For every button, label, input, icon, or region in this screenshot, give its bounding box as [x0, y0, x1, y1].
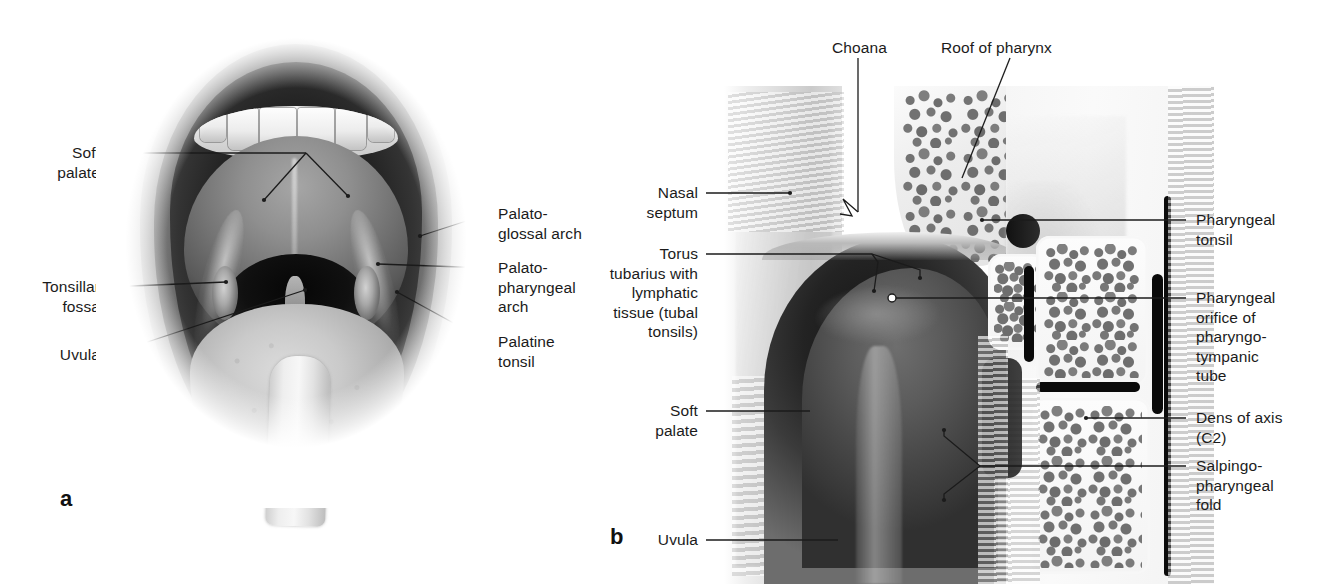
label-tonsillar-fossa: Tonsillar fossa: [0, 277, 100, 316]
label-soft-palate-a: Soft palate: [0, 143, 100, 182]
prevertebral-space: [1006, 214, 1040, 248]
intervertebral-disc: [1036, 382, 1140, 392]
anatomy-figure: Soft palate Tonsillar fossa Uvula Palato…: [0, 0, 1324, 584]
panel-marker-b: b: [610, 524, 623, 550]
label-roof-of-pharynx: Roof of pharynx: [941, 38, 1111, 58]
label-soft-palate-b: Soft palate: [568, 401, 698, 440]
label-pharyngeal-tonsil: Pharyngeal tonsil: [1196, 210, 1324, 249]
label-torus-tubarius: Torus tubarius with lymphatic tissue (tu…: [568, 244, 698, 342]
label-uvula-a: Uvula: [0, 345, 100, 365]
torus-highlight: [816, 286, 966, 356]
label-dens-of-axis: Dens of axis (C2): [1196, 408, 1324, 447]
trabecular-bone-dens-of-axis: [1044, 244, 1140, 378]
photo-vignette: [96, 8, 496, 508]
uvula-column: [856, 346, 902, 584]
panel-a-open-mouth-photograph: [96, 8, 496, 508]
panel-b-sagittal-section: [706, 86, 1214, 584]
label-nasal-septum: Nasal septum: [568, 183, 698, 222]
atlantoaxial-joint-space: [1024, 266, 1034, 362]
label-choana: Choana: [832, 38, 952, 58]
trabecular-bone-c3: [1038, 406, 1142, 568]
label-pharyngeal-orifice: Pharyngeal orifice of pharyngo- tympanic…: [1196, 288, 1324, 386]
label-salpingopharyngeal-fold: Salpingo- pharyngeal fold: [1196, 456, 1324, 515]
septum-mucosa-folds: [728, 92, 844, 232]
label-uvula-b: Uvula: [568, 530, 698, 550]
salpingopharyngeal-fold-fibers: [978, 336, 1008, 584]
posterior-joint-space: [1152, 274, 1163, 414]
panel-marker-a: a: [60, 486, 72, 512]
